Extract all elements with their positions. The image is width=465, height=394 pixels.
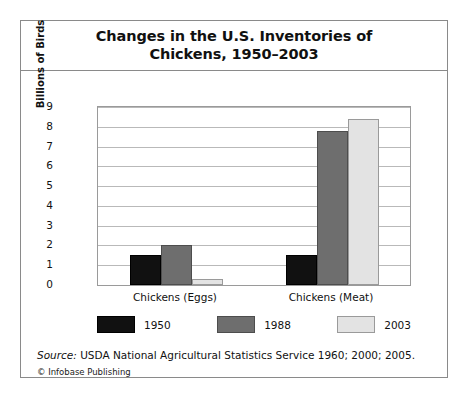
source-note: Source: USDA National Agricultural Stati… xyxy=(37,349,415,361)
source-text: USDA National Agricultural Statistics Se… xyxy=(77,349,415,361)
y-axis-tick-label: 1 xyxy=(23,258,53,270)
gridline xyxy=(98,107,410,108)
copyright-note: © Infobase Publishing xyxy=(37,367,131,377)
y-axis-tick-label: 6 xyxy=(23,159,53,171)
plot-area xyxy=(97,106,411,286)
y-axis-tick-label: 2 xyxy=(23,238,53,250)
bar-chickens-meat-1988 xyxy=(317,131,348,285)
chart-legend: 195019882003 xyxy=(97,316,411,333)
legend-item-1988: 1988 xyxy=(217,316,291,333)
legend-label-1988: 1988 xyxy=(264,319,291,331)
legend-swatch-1988 xyxy=(217,316,255,333)
bar-chickens-eggs-2003 xyxy=(192,279,223,285)
source-label: Source: xyxy=(37,349,77,361)
x-axis-category-label: Chickens (Eggs) xyxy=(133,291,217,303)
legend-item-2003: 2003 xyxy=(337,316,411,333)
y-axis-tick-label: 9 xyxy=(23,100,53,112)
y-axis-tick-label: 4 xyxy=(23,199,53,211)
plot-region: Billions of Birds 195019882003 Source: U… xyxy=(21,71,447,377)
legend-item-1950: 1950 xyxy=(97,316,171,333)
bar-chickens-meat-1950 xyxy=(286,255,317,285)
legend-swatch-1950 xyxy=(97,316,135,333)
title-block: Changes in the U.S. Inventories of Chick… xyxy=(21,21,447,71)
chart-figure: Changes in the U.S. Inventories of Chick… xyxy=(20,20,448,378)
bar-chickens-eggs-1988 xyxy=(161,245,192,285)
y-axis-tick-label: 8 xyxy=(23,120,53,132)
legend-label-1950: 1950 xyxy=(144,319,171,331)
y-axis-tick-label: 5 xyxy=(23,179,53,191)
y-axis-tick-label: 3 xyxy=(23,219,53,231)
x-axis-category-label: Chickens (Meat) xyxy=(289,291,374,303)
bar-chickens-eggs-1950 xyxy=(130,255,161,285)
legend-swatch-2003 xyxy=(337,316,375,333)
bar-chickens-meat-2003 xyxy=(348,119,379,285)
y-axis-tick-label: 7 xyxy=(23,140,53,152)
legend-label-2003: 2003 xyxy=(384,319,411,331)
page-title: Changes in the U.S. Inventories of Chick… xyxy=(86,28,382,63)
y-axis-tick-label: 0 xyxy=(23,278,53,290)
